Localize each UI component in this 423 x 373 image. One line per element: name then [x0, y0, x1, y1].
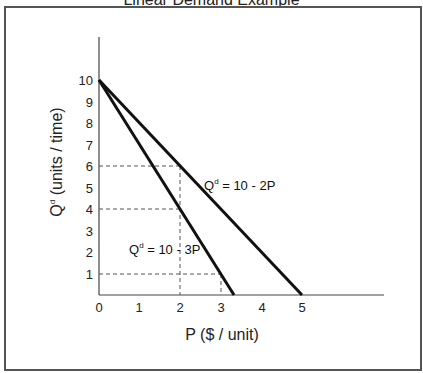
svg-text:6: 6: [86, 159, 93, 174]
svg-text:9: 9: [86, 95, 93, 110]
label-10-2p: Qd = 10 - 2P: [204, 177, 275, 193]
svg-text:5: 5: [86, 181, 93, 196]
svg-text:2: 2: [176, 300, 183, 315]
svg-text:4: 4: [86, 202, 93, 217]
svg-text:2: 2: [86, 245, 93, 260]
x-axis-label: P ($ / unit): [185, 326, 259, 343]
svg-text:8: 8: [86, 116, 93, 131]
svg-text:0: 0: [95, 300, 102, 315]
svg-text:3: 3: [217, 300, 224, 315]
x-tick-labels: 0 1 2 3 4 5: [95, 300, 305, 315]
y-tick-labels: 1 2 3 4 5 6 7 8 9 10: [79, 73, 93, 282]
svg-text:4: 4: [258, 300, 265, 315]
svg-text:10: 10: [79, 73, 93, 88]
reference-lines: [99, 166, 221, 295]
svg-text:Qd (units / time): Qd (units / time): [48, 107, 65, 216]
svg-text:5: 5: [298, 300, 305, 315]
label-10-3p: Qd = 10 - 3P: [129, 241, 200, 257]
svg-text:7: 7: [86, 138, 93, 153]
svg-text:3: 3: [86, 224, 93, 239]
y-axis-label: Qd (units / time): [48, 107, 65, 216]
demand-chart: 1 2 3 4 5 6 7 8 9 10 0 1 2 3 4 5 P ($ / …: [0, 0, 423, 373]
svg-text:1: 1: [135, 300, 142, 315]
svg-text:1: 1: [86, 267, 93, 282]
